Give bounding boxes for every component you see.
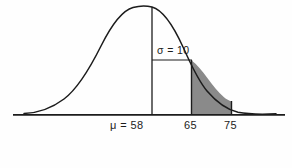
axis-label-mean: μ = 58 bbox=[110, 120, 144, 131]
axis-label-lower-bound: 65 bbox=[184, 120, 197, 131]
distribution-chart-canvas bbox=[0, 0, 292, 168]
axis-label-upper-bound: 75 bbox=[224, 120, 237, 131]
bell-curve-path bbox=[24, 6, 276, 114]
sigma-annotation-label: σ = 10 bbox=[157, 45, 190, 56]
normal-distribution-figure: σ = 10 μ = 58 65 75 bbox=[0, 0, 292, 168]
